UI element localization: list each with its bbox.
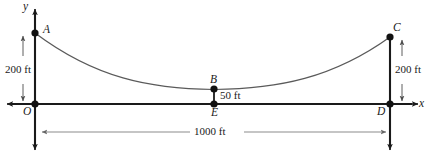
point-label-E: E <box>211 107 218 119</box>
point-B <box>210 85 217 92</box>
point-label-C: C <box>393 22 401 34</box>
x-axis-label: x <box>419 98 424 110</box>
dimension-label-sag-height: 50 ft <box>219 90 241 101</box>
point-D <box>386 100 393 107</box>
point-label-A: A <box>43 24 50 36</box>
y-axis-label: y <box>23 1 28 13</box>
dimension-label-right-height: 200 ft <box>394 64 422 75</box>
dimension-label-left-height: 200 ft <box>4 64 32 75</box>
point-A <box>31 29 38 36</box>
cable-diagram-figure: y x A B C D E O 200 ft 200 ft 50 ft 1000… <box>0 0 430 157</box>
point-label-D: D <box>377 106 385 118</box>
point-label-O: O <box>23 106 31 118</box>
point-O <box>31 100 38 107</box>
point-C <box>386 33 393 40</box>
dimension-label-span-width: 1000 ft <box>193 126 226 137</box>
point-label-B: B <box>210 74 217 86</box>
